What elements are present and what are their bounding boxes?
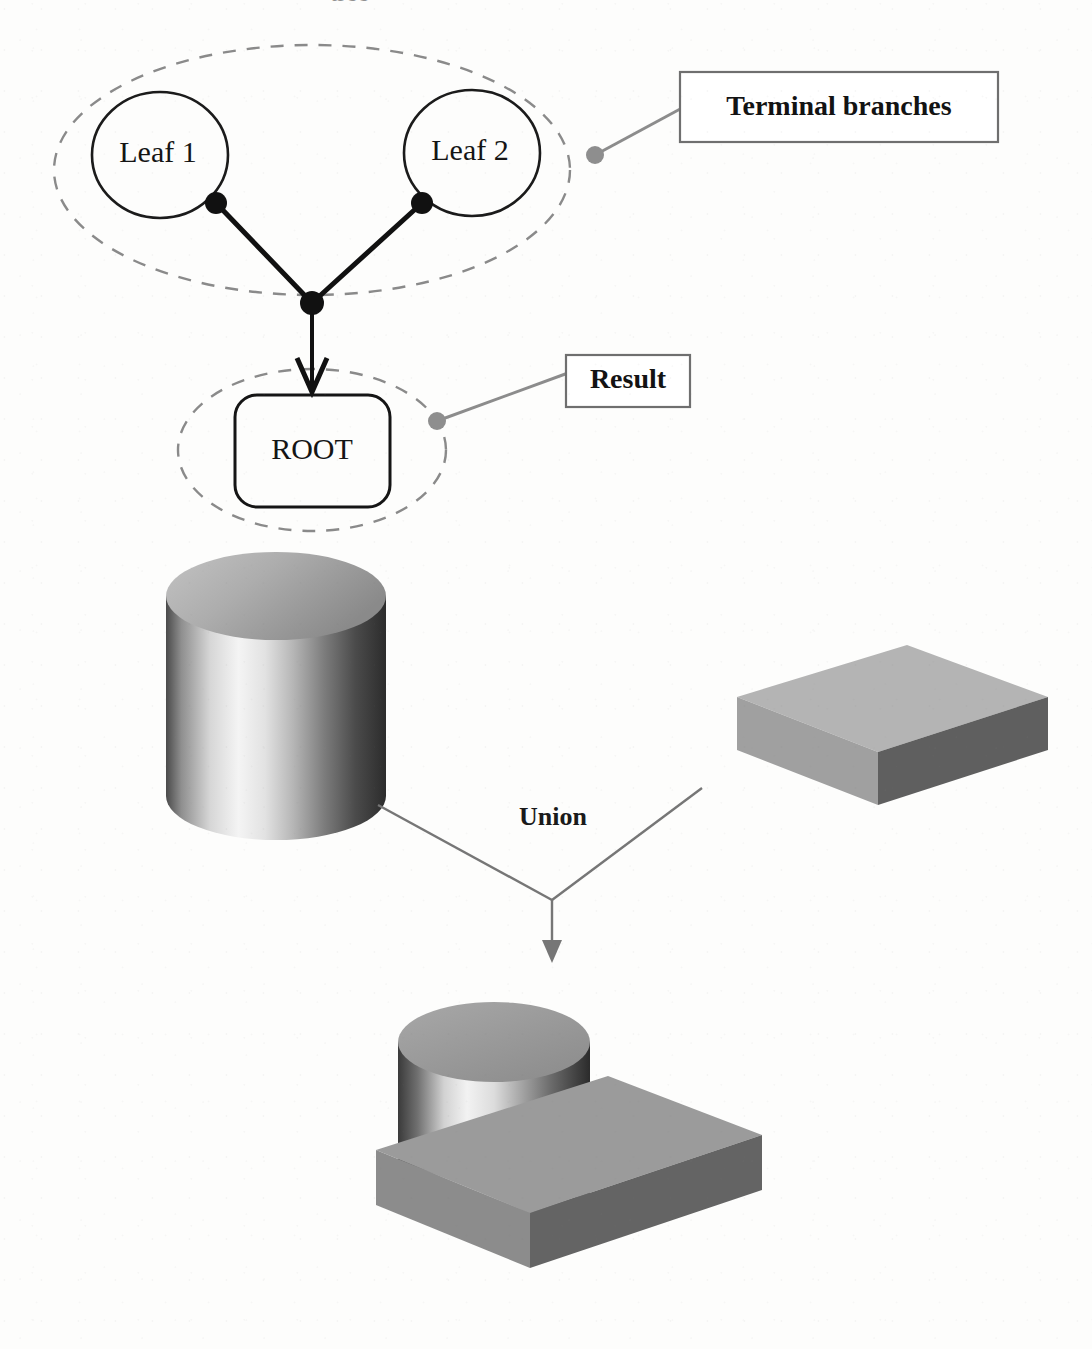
leaf-1-port-dot	[205, 192, 227, 214]
result-cylinder-top-face	[398, 1002, 590, 1082]
leaf-2-label: Leaf 2	[431, 133, 508, 166]
operand-cylinder-solid	[166, 552, 386, 840]
callout-terminal-branches: Terminal branches	[586, 72, 998, 164]
result-leader-line	[437, 373, 568, 421]
terminal-branches-leader-line	[595, 108, 682, 155]
union-operation: Union	[378, 788, 702, 963]
result-solid	[376, 1002, 762, 1268]
tree-edges	[216, 203, 422, 303]
figure-root: tree	[0, 0, 1092, 1349]
result-anchor-dot	[428, 412, 446, 430]
tree-node-dots	[205, 192, 433, 315]
junction-node-dot	[300, 291, 324, 315]
terminal-branches-group-ellipse	[54, 45, 570, 295]
result-label: Result	[590, 363, 667, 394]
edge-leaf2-junction	[312, 203, 422, 303]
leaf-2-port-dot	[411, 192, 433, 214]
terminal-branches-anchor-dot	[586, 146, 604, 164]
root-arrow	[297, 312, 327, 392]
union-operation-label: Union	[519, 802, 587, 831]
leaf-1-label: Leaf 1	[119, 135, 196, 168]
root-label: ROOT	[271, 432, 353, 465]
operand-box-solid	[737, 645, 1048, 805]
terminal-branches-label: Terminal branches	[726, 90, 951, 121]
union-arrow-head-icon	[542, 940, 562, 963]
root-node[interactable]: ROOT	[235, 395, 390, 507]
cylinder-top-face	[166, 552, 386, 640]
callout-result: Result	[428, 355, 690, 430]
leaf-nodes: Leaf 1 Leaf 2	[92, 90, 540, 218]
figure-canvas: Leaf 1 Leaf 2 ROOT Terminal branches Res…	[0, 0, 1092, 1349]
